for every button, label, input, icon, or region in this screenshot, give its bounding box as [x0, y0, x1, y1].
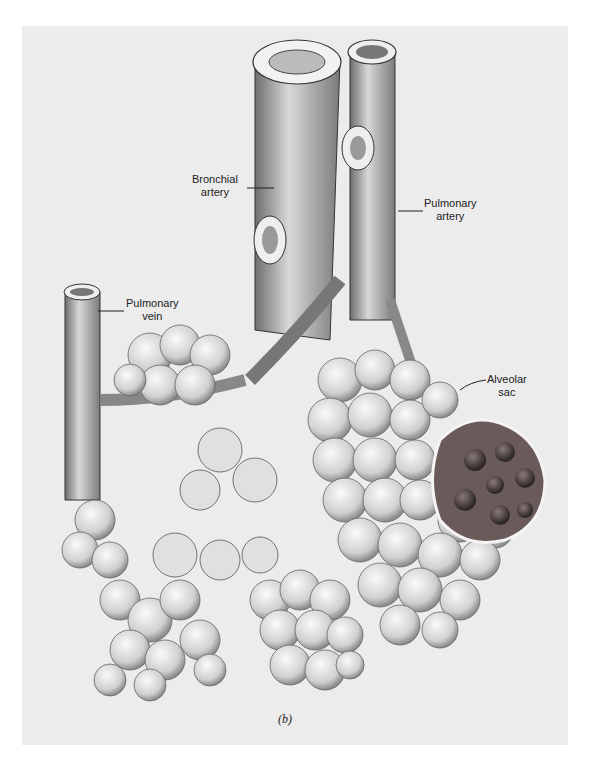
label-bronchial-artery: Bronchial artery	[192, 173, 238, 199]
alveolar-sac-section	[433, 420, 546, 543]
label-line-2: artery	[192, 186, 238, 199]
label-alveolar-sac: Alveolar sac	[487, 373, 527, 399]
label-line-1: Pulmonary	[424, 197, 477, 210]
label-line-1: Alveolar	[487, 373, 527, 386]
label-pulmonary-vein: Pulmonary vein	[126, 297, 179, 323]
capillary-network	[153, 428, 278, 580]
label-line-1: Bronchial	[192, 173, 238, 186]
label-pulmonary-artery: Pulmonary artery	[424, 197, 477, 223]
label-line-2: vein	[126, 310, 179, 323]
label-line-1: Pulmonary	[126, 297, 179, 310]
figure-caption: (b)	[278, 712, 292, 727]
label-line-2: artery	[424, 210, 477, 223]
label-line-2: sac	[487, 386, 527, 399]
